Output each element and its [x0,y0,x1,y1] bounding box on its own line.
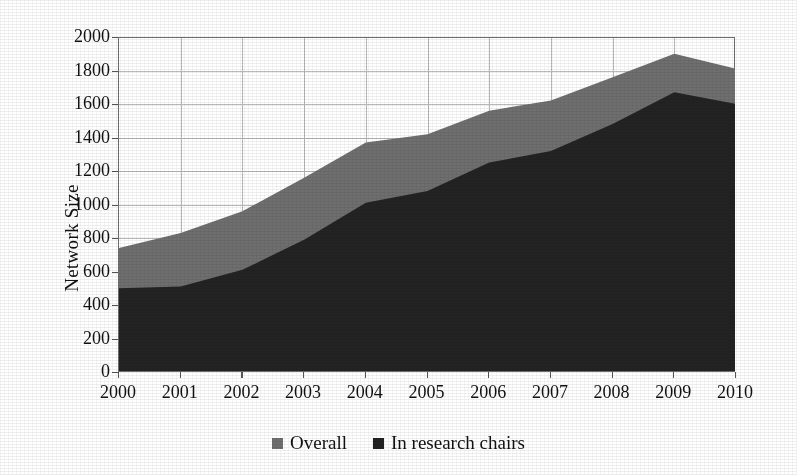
x-axis-tick-mark [241,372,242,378]
legend-item[interactable]: Overall [272,432,347,454]
legend-swatch-icon [272,438,283,449]
chart-legend: OverallIn research chairs [0,432,797,454]
x-axis-tick-label: 2004 [335,382,395,403]
x-axis-tick-mark [612,372,613,378]
x-axis-tick-label: 2003 [273,382,333,403]
x-axis-tick-label: 2009 [643,382,703,403]
area-series-group [119,37,735,371]
x-axis-tick-label: 2002 [211,382,271,403]
x-axis-tick-mark [735,372,736,378]
x-axis-tick-mark [550,372,551,378]
chart-figure: Network Size 020040060080010001200140016… [0,0,797,475]
plot-area [118,37,735,372]
x-axis-tick-label: 2008 [582,382,642,403]
legend-label: In research chairs [391,432,525,454]
x-axis-tick-label: 2006 [458,382,518,403]
x-axis-tick-label: 2007 [520,382,580,403]
legend-swatch-icon [373,438,384,449]
x-axis-tick-mark [303,372,304,378]
x-axis-tick-mark [673,372,674,378]
x-axis-tick-label: 2010 [705,382,765,403]
x-axis-tick-label: 2000 [88,382,148,403]
x-axis-tick-mark [118,372,119,378]
x-axis-tick-mark [180,372,181,378]
legend-label: Overall [290,432,347,454]
x-axis-tick-label: 2001 [150,382,210,403]
x-axis-tick-label: 2005 [397,382,457,403]
x-axis-tick-mark [365,372,366,378]
x-axis-tick-mark [488,372,489,378]
legend-item[interactable]: In research chairs [373,432,525,454]
x-axis-tick-mark [427,372,428,378]
